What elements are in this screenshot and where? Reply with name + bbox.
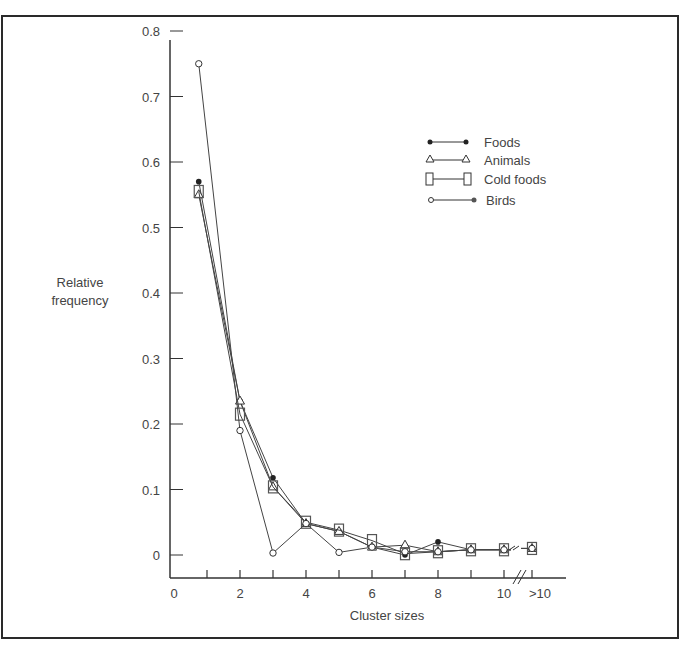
legend: Foods Animals Cold foods Birds bbox=[426, 135, 547, 208]
x-tick-label: 10 bbox=[497, 586, 511, 601]
y-tick-label: 0.7 bbox=[142, 90, 160, 105]
legend-item-birds: Birds bbox=[429, 193, 517, 208]
y-axis-title-line1: Relative bbox=[57, 275, 104, 290]
line-chart: 00.10.20.30.40.50.60.70.8 0246810>10 Rel… bbox=[0, 0, 691, 659]
x-tick-label: 4 bbox=[302, 586, 309, 601]
filled-circle-marker-icon bbox=[270, 475, 276, 481]
filled-circle-marker-icon bbox=[428, 140, 433, 145]
triangle-marker-icon bbox=[401, 540, 410, 548]
legend-label: Birds bbox=[486, 193, 516, 208]
y-tick-label: 0.4 bbox=[142, 286, 160, 301]
open-circle-marker-icon bbox=[196, 61, 202, 67]
y-tick-label: 0.5 bbox=[142, 221, 160, 236]
x-tick-label: 8 bbox=[434, 586, 441, 601]
filled-circle-marker-icon bbox=[435, 539, 441, 545]
y-tick-label: 0.3 bbox=[142, 352, 160, 367]
open-circle-marker-icon bbox=[468, 547, 474, 553]
x-tick-label: 6 bbox=[368, 586, 375, 601]
y-tick-label: 0.1 bbox=[142, 483, 160, 498]
x-tick-label: 0 bbox=[170, 586, 177, 601]
filled-circle-marker-icon bbox=[196, 179, 202, 185]
legend-label: Cold foods bbox=[484, 172, 547, 187]
triangle-marker-icon bbox=[426, 155, 434, 162]
x-axis-ticks: 0246810>10 bbox=[170, 570, 551, 601]
open-circle-marker-icon bbox=[237, 427, 243, 433]
y-tick-label: 0.8 bbox=[142, 24, 160, 39]
x-axis-title: Cluster sizes bbox=[350, 608, 425, 623]
square-marker-icon bbox=[426, 173, 433, 185]
open-circle-marker-icon bbox=[369, 544, 375, 550]
y-tick-label: 0.2 bbox=[142, 417, 160, 432]
filled-circle-marker-icon bbox=[472, 198, 477, 203]
series-foods bbox=[196, 179, 535, 558]
legend-item-cold-foods: Cold foods bbox=[426, 172, 547, 187]
legend-item-animals: Animals bbox=[426, 153, 531, 168]
legend-label: Foods bbox=[484, 135, 521, 150]
legend-item-foods: Foods bbox=[428, 135, 521, 150]
open-circle-marker-icon bbox=[435, 549, 441, 555]
filled-circle-marker-icon bbox=[464, 140, 469, 145]
open-circle-marker-icon bbox=[501, 547, 507, 553]
y-axis-ticks: 00.10.20.30.40.50.60.70.8 bbox=[142, 24, 183, 563]
open-circle-marker-icon bbox=[402, 549, 408, 555]
open-circle-marker-icon bbox=[336, 549, 342, 555]
open-circle-marker-icon bbox=[429, 198, 434, 203]
open-circle-marker-icon bbox=[529, 545, 535, 551]
open-circle-marker-icon bbox=[270, 550, 276, 556]
x-tick-label: 2 bbox=[236, 586, 243, 601]
y-axis-title-line2: frequency bbox=[51, 293, 109, 308]
legend-label: Animals bbox=[484, 153, 531, 168]
open-circle-marker-icon bbox=[303, 520, 309, 526]
square-marker-icon bbox=[464, 173, 471, 185]
y-tick-label: 0 bbox=[153, 548, 160, 563]
series-animals bbox=[194, 190, 536, 555]
series-cold-foods bbox=[194, 185, 536, 559]
y-tick-label: 0.6 bbox=[142, 155, 160, 170]
triangle-marker-icon bbox=[462, 155, 470, 162]
x-tick-label: >10 bbox=[529, 586, 551, 601]
